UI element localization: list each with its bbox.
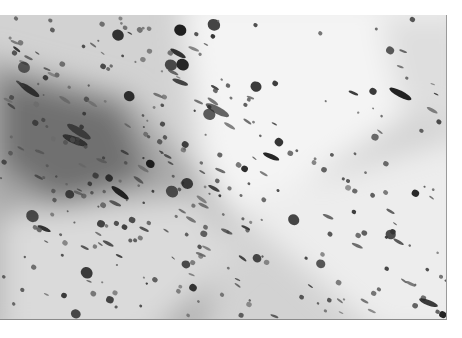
micrograph-image [0,15,447,320]
micrograph-canvas [0,15,446,319]
